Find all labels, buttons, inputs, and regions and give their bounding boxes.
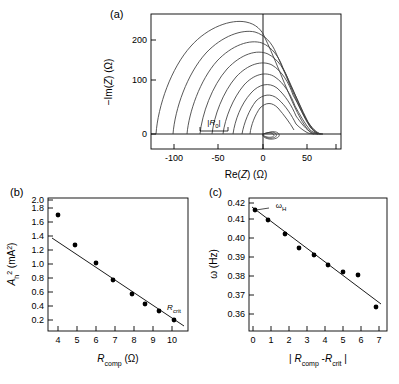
panel-c-ylabel: ω (Hz) (208, 249, 219, 278)
panel-b: (b) Rcrit 4 5 6 (2, 186, 198, 382)
panel-b-xtick-0: 4 (55, 335, 60, 345)
panel-c-xtick-5: 5 (340, 335, 345, 345)
panel-a-ylabel: −Im(Z) (Ω) (103, 59, 114, 106)
panel-a-low-frequency-loops (263, 132, 280, 139)
panel-c-ytick-4: 0.40 (227, 233, 245, 243)
panel-c: (c) ωH (203, 186, 399, 382)
panel-c-xtick-0: 0 (250, 335, 255, 345)
panel-c-ytick-2: 0.38 (227, 271, 245, 281)
panel-c-point-5 (326, 263, 331, 268)
panel-c-fit-line (252, 207, 381, 304)
panel-b-point-5 (143, 302, 148, 307)
panel-a: (a) (96, 6, 366, 181)
panel-b-ytick-7: 1.6 (31, 217, 44, 227)
panel-c-plot: ωH 0 1 2 3 4 5 6 7 (203, 186, 399, 382)
panel-b-y-ticks (48, 200, 53, 320)
panel-b-ytick-0: 0.2 (31, 315, 44, 325)
panel-c-xtick-4: 4 (322, 335, 327, 345)
panel-a-x-ticks (174, 144, 336, 149)
panel-a-ytick-1: 100 (132, 75, 147, 85)
panel-c-point-2 (283, 232, 288, 237)
panel-a-ytick-2: 200 (132, 35, 147, 45)
panel-b-xtick-5: 9 (150, 335, 155, 345)
panel-c-xtick-1: 1 (268, 335, 273, 345)
panel-b-ytick-6: 1.4 (31, 231, 44, 241)
panel-c-y-ticks (249, 203, 254, 314)
panel-a-impedance-arcs (156, 21, 323, 134)
panel-c-x-ticks (253, 326, 379, 331)
panel-c-point-8 (374, 305, 379, 310)
panel-c-omega-h-label: ωH (276, 201, 287, 212)
panel-c-ytick-5: 0.41 (227, 214, 245, 224)
panel-b-ytick-1: 0.4 (31, 301, 44, 311)
panel-b-ytick-4: 1.0 (31, 259, 44, 269)
panel-b-rcrit-label: Rcrit (167, 303, 181, 314)
panel-b-point-1 (73, 243, 78, 248)
panel-a-y-ticks (151, 40, 156, 134)
panel-b-ytick-3: 0.8 (31, 273, 44, 283)
panel-a-xtick-3: 50 (302, 153, 312, 163)
panel-c-frame (249, 198, 387, 331)
panel-c-xtick-6: 6 (358, 335, 363, 345)
panel-c-ytick-3: 0.39 (227, 252, 245, 262)
panel-b-xtick-6: 10 (167, 335, 177, 345)
panel-b-point-4 (130, 292, 135, 297)
panel-b-point-0 (56, 213, 61, 218)
panel-c-label: (c) (209, 186, 222, 198)
panel-b-xtick-1: 5 (74, 335, 79, 345)
panel-a-xlabel: Re(Z) (Ω) (225, 169, 267, 180)
panel-b-plot: Rcrit 4 5 6 7 8 9 10 (2, 186, 198, 382)
panel-b-xtick-4: 8 (131, 335, 136, 345)
panel-b-xtick-3: 7 (112, 335, 117, 345)
panel-a-xtick-1: -50 (211, 153, 224, 163)
panel-a-ytick-0: 0 (142, 129, 147, 139)
panel-c-point-6 (341, 270, 346, 275)
panel-a-xtick-2: 0 (260, 153, 265, 163)
panel-b-xlabel: Rcomp (Ω) (97, 353, 138, 368)
panel-c-ytick-1: 0.37 (227, 290, 245, 300)
panel-c-xtick-7: 7 (376, 335, 381, 345)
panel-c-omega-h-annotation: ωH (256, 201, 286, 212)
panel-c-ytick-6: 0.42 (227, 198, 245, 208)
panel-b-x-ticks (58, 326, 172, 331)
panel-b-ytick-2: 0.6 (31, 287, 44, 297)
panel-b-data-points (56, 213, 177, 323)
panel-c-xtick-3: 3 (304, 335, 309, 345)
panel-c-ytick-0: 0.36 (227, 309, 245, 319)
panel-a-label: (a) (110, 8, 123, 20)
panel-b-xtick-2: 6 (93, 335, 98, 345)
panel-c-xlabel: | Rcomp -Rcrit | (289, 353, 347, 368)
panel-c-xtick-2: 2 (286, 335, 291, 345)
panel-a-xtick-0: -100 (165, 153, 183, 163)
panel-a-plot: |R0| -100 -50 0 50 0 100 200 Re(Z) (Ω) −… (96, 6, 366, 181)
panel-b-point-3 (111, 278, 116, 283)
panel-b-point-2 (94, 261, 99, 266)
panel-b-point-6 (157, 309, 162, 314)
panel-c-point-1 (266, 218, 271, 223)
panel-b-fit-line (52, 238, 184, 326)
panel-b-label: (b) (10, 186, 23, 198)
panel-a-r0-label: |R0| (207, 118, 220, 129)
panel-c-data-points (253, 208, 379, 310)
panel-c-point-4 (312, 253, 317, 258)
panel-b-point-7 (172, 318, 177, 323)
panel-c-point-3 (297, 246, 302, 251)
panel-b-ytick-5: 1.2 (31, 245, 44, 255)
panel-c-point-7 (356, 273, 361, 278)
panel-b-ytick-9: 2.0 (31, 195, 44, 205)
panel-b-ylabel: Ah2 (mA2) (6, 243, 20, 287)
